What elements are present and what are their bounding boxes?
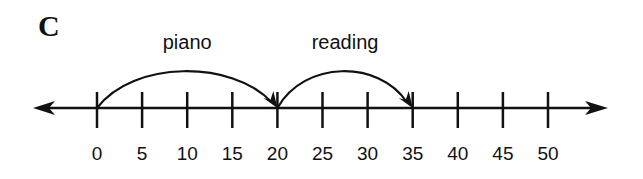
tick-label: 5 — [137, 143, 148, 164]
tick-label: 0 — [92, 143, 103, 164]
tick-label: 10 — [177, 143, 198, 164]
tick-label: 20 — [267, 143, 288, 164]
tick-label: 50 — [537, 143, 558, 164]
tick-labels: 05101520253035404550 — [92, 143, 559, 164]
jump-arc — [97, 71, 271, 108]
panel-label: C — [38, 9, 60, 42]
jump-reading: reading — [277, 31, 412, 108]
tick-label: 25 — [312, 143, 333, 164]
tick-label: 35 — [402, 143, 423, 164]
tick-marks — [97, 92, 548, 128]
number-line-diagram: C 05101520253035404550 piano reading — [0, 0, 643, 179]
tick-label: 15 — [222, 143, 243, 164]
tick-label: 30 — [357, 143, 378, 164]
jump-label-piano: piano — [163, 31, 212, 53]
jump-arc — [277, 71, 406, 108]
tick-label: 40 — [447, 143, 468, 164]
jump-label-reading: reading — [312, 31, 379, 53]
tick-label: 45 — [492, 143, 513, 164]
